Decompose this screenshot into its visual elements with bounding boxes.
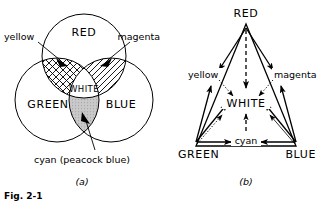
panel-a-caption: (a) <box>75 176 88 187</box>
triangle-label-green: GREEN <box>178 148 219 161</box>
figure-2-1: RED GREEN BLUE WHITE yellow magenta cyan… <box>0 0 327 203</box>
venn-label-white: WHITE <box>69 84 99 94</box>
venn-label-magenta: magenta <box>117 31 160 42</box>
arrow-magenta-to-white <box>259 80 273 96</box>
venn-label-blue: BLUE <box>106 98 137 111</box>
arrow-green-to-white-dotted <box>197 115 222 144</box>
triangle-label-blue: BLUE <box>285 148 316 161</box>
venn-label-red: RED <box>72 26 97 39</box>
triangle-label-white: WHITE <box>226 97 265 110</box>
venn-label-green: GREEN <box>27 98 68 111</box>
triangle-label-red: RED <box>234 7 259 20</box>
venn-label-yellow: yellow <box>4 31 35 42</box>
triangle-label-yellow: yellow <box>188 69 219 80</box>
panel-b-color-triangle: RED GREEN BLUE yellow magenta cyan WHITE… <box>164 0 327 203</box>
triangle-svg: RED GREEN BLUE yellow magenta cyan WHITE… <box>164 0 327 203</box>
figure-caption: Fig. 2-1 <box>4 191 43 203</box>
arrow-yellow-to-white <box>219 80 233 96</box>
leader-yellow <box>38 42 60 60</box>
venn-svg: RED GREEN BLUE WHITE yellow magenta cyan… <box>0 0 164 203</box>
leader-magenta <box>108 42 130 60</box>
panel-b-caption: (b) <box>239 176 252 187</box>
triangle-label-magenta: magenta <box>274 69 317 80</box>
triangle-label-cyan: cyan <box>235 135 258 146</box>
panel-a-venn-diagram: RED GREEN BLUE WHITE yellow magenta cyan… <box>0 0 164 203</box>
venn-label-cyan: cyan (peacock blue) <box>34 154 130 165</box>
arrow-blue-to-white-thin <box>270 115 295 144</box>
arrow-red-to-magenta <box>246 28 273 70</box>
arrow-red-to-yellow <box>219 28 246 70</box>
